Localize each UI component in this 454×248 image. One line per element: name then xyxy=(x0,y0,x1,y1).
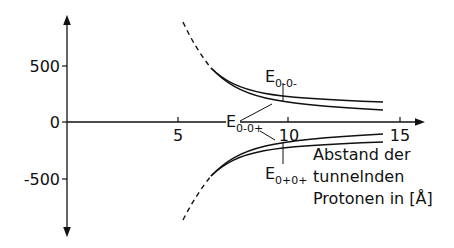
label-e00minus: E0-0- xyxy=(265,67,297,90)
label-e00plus: E0-0+ xyxy=(226,112,263,135)
x-tick-label-15: 15 xyxy=(390,126,410,145)
leader-e00plus-upper xyxy=(240,104,272,121)
x-axis-label-line1: Abstand der xyxy=(313,145,411,164)
lower-curve-dashed xyxy=(183,176,211,220)
x-axis-label-line2: tunnelnden xyxy=(313,167,404,186)
x-axis-label-line3: Protonen in [Å] xyxy=(313,189,433,208)
y-tick-label-minus500: -500 xyxy=(24,170,60,189)
y-tick-label-500: 500 xyxy=(29,57,60,76)
upper-curve-dashed xyxy=(183,22,211,68)
x-tick-label-5: 5 xyxy=(173,126,183,145)
energy-diagram: 500 0 -500 5 10 15 E0-0- E0-0+ E0+0+ Abs… xyxy=(0,0,454,248)
label-e0p0p: E0+0+ xyxy=(265,164,308,187)
y-tick-label-0: 0 xyxy=(50,113,60,132)
